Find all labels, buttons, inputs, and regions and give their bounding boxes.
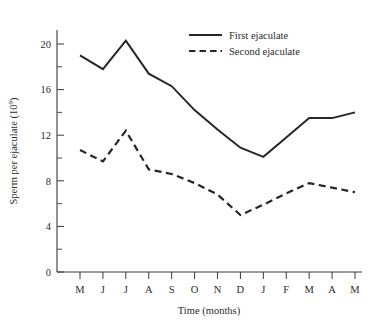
x-tick-label-10: M (304, 284, 314, 295)
y-tick-label-4: 4 (46, 221, 52, 232)
x-tick-label-5: O (191, 284, 199, 295)
legend-label-second-ejaculate: Second ejaculate (229, 46, 300, 57)
y-tick-label-16: 16 (41, 84, 52, 95)
x-tick-label-11: A (328, 284, 336, 295)
x-tick-label-4: S (169, 284, 175, 295)
x-tick-label-3: A (145, 284, 153, 295)
x-tick-label-0: M (75, 284, 85, 295)
x-tick-label-9: F (283, 284, 289, 295)
y-tick-label-20: 20 (41, 39, 52, 50)
y-tick-label-8: 8 (46, 176, 51, 187)
y-axis-title-main: Sperm per ejaculate (10 (8, 105, 20, 205)
x-tick-label-8: J (261, 284, 265, 295)
y-tick-label-0: 0 (46, 267, 51, 278)
x-tick-label-2: J (124, 284, 128, 295)
x-tick-label-7: D (237, 284, 245, 295)
x-tick-label-12: M (350, 284, 360, 295)
x-axis-title: Time (months) (178, 305, 241, 317)
y-axis-title: Sperm per ejaculate (109) (7, 97, 20, 205)
y-axis-title-close: ) (8, 97, 20, 101)
y-tick-label-12: 12 (41, 130, 52, 141)
legend-label-first-ejaculate: First ejaculate (229, 30, 289, 41)
sperm-per-ejaculate-line-chart: 048121620 MJJASONDJFMAM First ejaculate … (0, 0, 377, 326)
x-tick-label-1: J (101, 284, 105, 295)
x-tick-label-6: N (214, 284, 222, 295)
